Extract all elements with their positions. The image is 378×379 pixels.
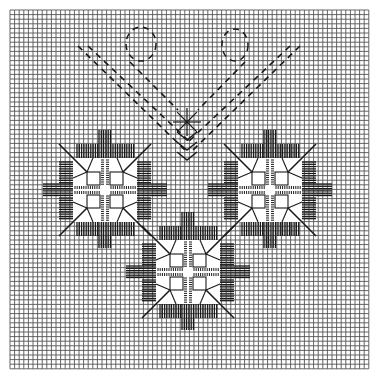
embroidery-chart [0, 0, 378, 379]
stitch-pattern-canvas [0, 0, 378, 379]
